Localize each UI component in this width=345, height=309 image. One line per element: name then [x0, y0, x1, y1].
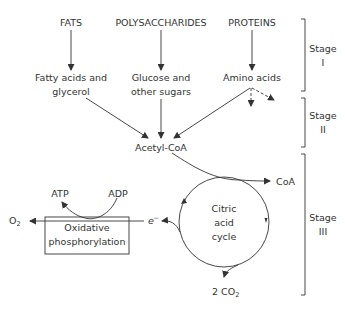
catabolism-diagram: FATS POLYSACCHARIDES PROTEINS Fatty acid…	[0, 0, 345, 309]
label-polysaccharides: POLYSACCHARIDES	[115, 17, 206, 28]
label-electron: e−	[148, 214, 159, 226]
label-cycle-2: acid	[214, 217, 234, 228]
label-co2: 2 CO2	[212, 286, 239, 299]
label-fatty-acids-2: glycerol	[52, 86, 90, 97]
label-stage-2: Stage	[309, 110, 337, 121]
label-oxphos-1: Oxidative	[64, 222, 110, 233]
label-o2: O2	[9, 215, 21, 228]
label-stage-3-num: III	[319, 226, 327, 237]
label-stage-2-num: II	[320, 124, 326, 135]
label-oxphos-2: phosphorylation	[49, 236, 126, 247]
label-glucose-2: other sugars	[131, 86, 191, 97]
label-coa: CoA	[276, 176, 295, 187]
label-cycle-3: cycle	[212, 231, 237, 242]
bracket-stage-2	[301, 98, 305, 147]
arrow-amino-dashed-right	[252, 88, 274, 100]
label-proteins: PROTEINS	[228, 17, 276, 28]
label-fatty-acids-1: Fatty acids and	[35, 72, 107, 83]
label-fats: FATS	[60, 17, 82, 28]
label-atp: ATP	[51, 188, 69, 199]
label-amino-acids: Amino acids	[223, 72, 281, 83]
label-glucose-1: Glucose and	[132, 72, 191, 83]
cycle-arrowhead-top-left	[181, 198, 187, 204]
label-stage-3: Stage	[309, 212, 337, 223]
label-cycle-1: Citric	[212, 203, 237, 214]
cycle-arrowhead-right	[265, 218, 268, 223]
arrow-fatty-to-acetyl	[86, 98, 148, 138]
label-acetyl-coa: Acetyl-CoA	[135, 142, 187, 153]
label-stage-1-num: I	[322, 57, 325, 68]
arrow-cycle-to-electron	[162, 221, 180, 232]
bracket-stage-3	[301, 154, 305, 295]
label-stage-1: Stage	[309, 43, 337, 54]
bracket-stage-1	[301, 19, 305, 91]
arrow-adp-to-atp	[62, 198, 117, 219]
label-adp: ADP	[108, 188, 128, 199]
